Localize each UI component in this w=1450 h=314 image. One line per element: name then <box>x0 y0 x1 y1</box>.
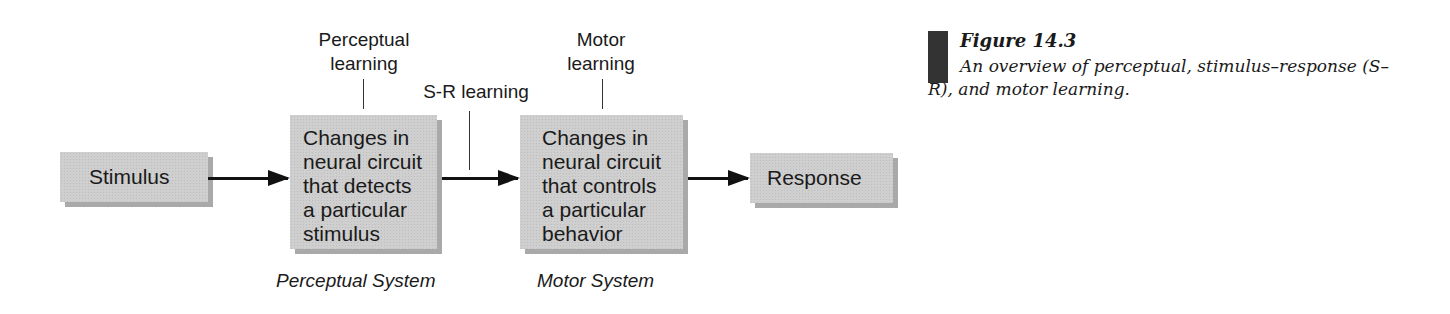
perceptual-learning-tick <box>363 79 364 109</box>
motor-system-box: Changes in neural circuit that controls … <box>520 115 683 249</box>
arrow-stimulus-to-perceptual <box>208 177 288 180</box>
perceptual-learning-label: Perceptual learning <box>305 28 423 76</box>
stimulus-label: Stimulus <box>89 165 170 189</box>
motor-box-text: Changes in neural circuit that controls … <box>542 126 661 246</box>
response-box: Response <box>750 153 893 203</box>
arrow-motor-to-response <box>688 177 748 180</box>
stimulus-box: Stimulus <box>60 152 208 202</box>
response-label: Response <box>767 166 862 190</box>
sr-learning-label: S-R learning <box>414 80 538 104</box>
perceptual-system-box: Changes in neural circuit that detects a… <box>290 115 437 249</box>
motor-learning-tick <box>602 79 603 109</box>
perceptual-system-label: Perceptual System <box>276 270 435 292</box>
motor-learning-label: Motor learning <box>556 28 646 76</box>
arrow-perceptual-to-motor <box>442 177 518 180</box>
sr-learning-tick <box>469 111 470 170</box>
figure-caption: An overview of perceptual, stimulus–resp… <box>928 55 1408 101</box>
motor-system-label: Motor System <box>537 270 654 292</box>
figure-title: Figure 14.3 <box>960 30 1076 51</box>
perceptual-box-text: Changes in neural circuit that detects a… <box>303 126 422 246</box>
